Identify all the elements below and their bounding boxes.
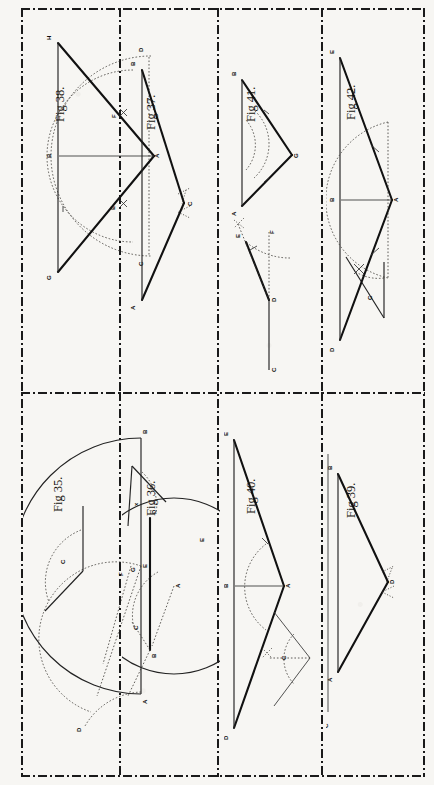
point-label-A: A xyxy=(285,583,291,588)
figure-cell-fig41: Fig 41. D F C E G B A xyxy=(224,10,322,392)
plate-sheet: PLATE IX. Fig 38. xyxy=(0,0,434,785)
point-label-A: A xyxy=(393,197,399,202)
divider-horizontal xyxy=(21,392,425,394)
figure-drawing-fig39: D B A C xyxy=(326,396,425,777)
figure-drawing-fig42: C A E B D xyxy=(326,10,425,392)
point-label-A: A xyxy=(130,305,136,310)
angle-label-C: C xyxy=(281,655,287,660)
line-label-C: C xyxy=(326,723,329,728)
point-label-D: D xyxy=(224,735,229,740)
circle-outline xyxy=(122,498,220,674)
point-label-F: F xyxy=(269,230,275,234)
figure-cell-fig42: Fig 42. C A E B D xyxy=(326,10,425,392)
point-label-B: B xyxy=(130,61,136,66)
figure-drawing-fig37: C B A xyxy=(122,10,220,392)
point-label-D: D xyxy=(151,509,157,514)
figure-drawing-fig41: D F C E G B A xyxy=(224,10,322,392)
figure-cell-fig37: Fig 37. C B A xyxy=(122,10,220,392)
point-label-E: E xyxy=(199,538,205,542)
point-label-B: B xyxy=(224,583,229,588)
point-label-D: D xyxy=(329,347,335,352)
angle-label-C: C xyxy=(60,559,66,564)
point-label-D: D xyxy=(389,579,395,584)
point-label-B: B xyxy=(46,153,52,158)
point-label-E: E xyxy=(110,206,116,210)
point-label-A: A xyxy=(175,583,181,588)
point-label-F: F xyxy=(111,114,117,118)
point-label-H: H xyxy=(46,36,52,40)
point-label-C: C xyxy=(187,201,193,206)
figure-drawing-fig36: x A D B C E xyxy=(122,396,220,777)
point-label-D: D xyxy=(76,727,82,732)
point-label-D: D xyxy=(271,297,277,302)
point-label-E: E xyxy=(224,432,229,436)
point-label-A: A xyxy=(231,211,237,216)
angle-label-C: C xyxy=(367,295,373,300)
point-label-B: B xyxy=(231,71,237,76)
point-label-E: E xyxy=(235,234,241,238)
figure-cell-fig40: Fig 40. A E B D C xyxy=(224,396,322,777)
angle-label-x: x xyxy=(133,502,139,506)
point-label-B: B xyxy=(329,197,335,202)
point-label-C: C xyxy=(133,625,139,630)
point-label-G: G xyxy=(293,153,299,158)
figure-cell-fig36: Fig 36. x A D B C E xyxy=(122,396,220,777)
figure-cell-fig39: Fig 39. D B A C xyxy=(326,396,425,777)
figure-drawing-fig40: A E B D C xyxy=(224,396,322,777)
point-label-E: E xyxy=(329,50,335,54)
point-label-C: C xyxy=(271,367,277,372)
point-label-G: G xyxy=(46,275,52,280)
point-label-B: B xyxy=(151,653,157,658)
